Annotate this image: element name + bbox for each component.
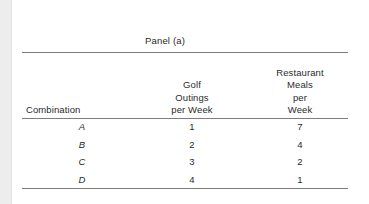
cell-restaurant-meals: 7 <box>252 120 348 133</box>
cell-restaurant-meals: 1 <box>252 173 348 186</box>
column-header-combination: Combination <box>22 104 146 116</box>
cell-restaurant-meals: 4 <box>252 138 348 151</box>
table-rule-top <box>22 52 348 53</box>
table-row: A 1 7 <box>22 118 348 136</box>
table-rule-bottom <box>22 188 348 189</box>
page-edge-divider <box>11 0 12 204</box>
column-header-restaurant-meals: Restaurant Meals per Week <box>252 67 348 116</box>
cell-golf-outings: 1 <box>142 120 242 133</box>
table-header-row: Combination Golf Outings per Week Restau… <box>22 56 348 116</box>
cell-golf-outings: 3 <box>142 155 242 168</box>
cell-golf-outings: 4 <box>142 173 242 186</box>
table-screenshot: Panel (a) Combination Golf Outings per W… <box>0 0 369 204</box>
cell-golf-outings: 2 <box>142 138 242 151</box>
cell-restaurant-meals: 2 <box>252 155 348 168</box>
panel-title: Panel (a) <box>22 35 348 47</box>
table-row: C 3 2 <box>22 153 348 171</box>
table-row: D 4 1 <box>22 171 348 189</box>
panel-a-table: Panel (a) Combination Golf Outings per W… <box>22 0 348 204</box>
page-edge-strip <box>0 0 11 204</box>
table-body: A 1 7 B 2 4 C 3 2 D 4 1 <box>22 118 348 188</box>
table-row: B 2 4 <box>22 136 348 154</box>
panel-title-text: Panel (a) <box>145 35 185 46</box>
column-header-golf-outings: Golf Outings per Week <box>142 79 242 116</box>
